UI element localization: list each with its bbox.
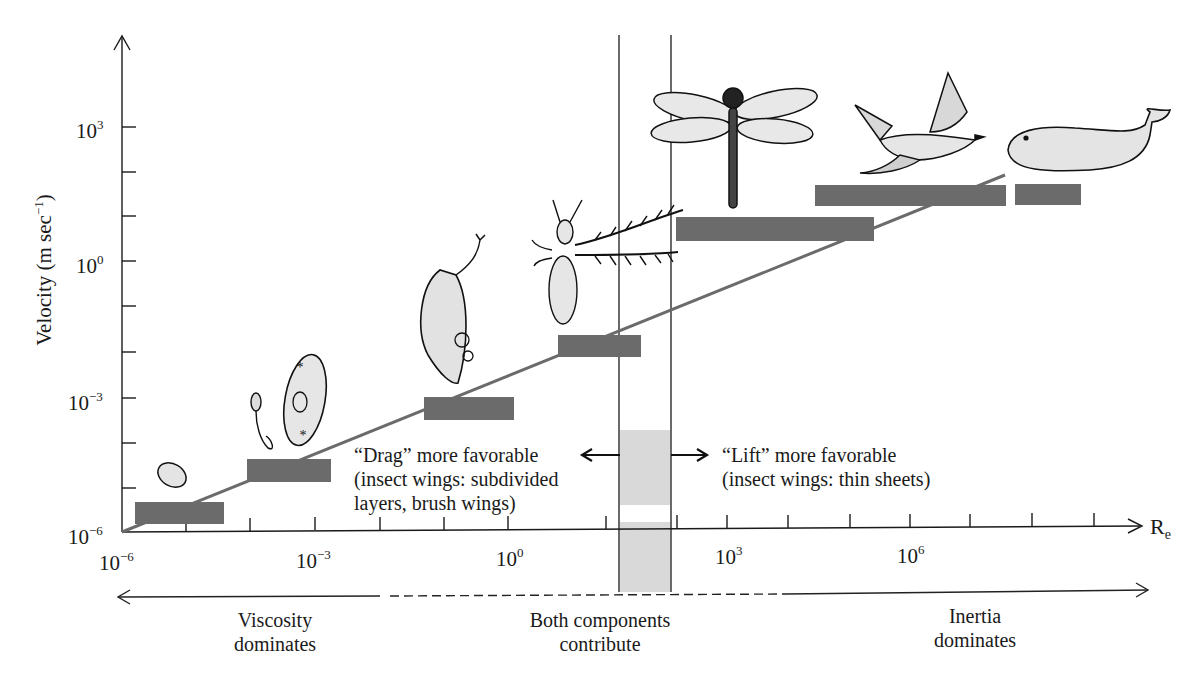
x-tick-exp: 6 [918, 542, 925, 557]
x-tick-exp: −6 [120, 549, 134, 564]
spore-icon [154, 458, 191, 492]
x-axis-label: Re [1150, 514, 1171, 543]
regime-viscosity-line-1: Viscosity [200, 608, 350, 632]
x-axis-label-text: R [1150, 514, 1165, 539]
x-tick-exp: −3 [317, 547, 331, 562]
bar-thrips [558, 335, 641, 357]
drag-line-1: “Drag” more favorable [354, 443, 558, 467]
lift-line-2: (insect wings: thin sheets) [722, 467, 930, 491]
regime-inertia-line-2: dominates [900, 628, 1050, 652]
bird-icon [855, 73, 984, 173]
y-tick-exp: 0 [97, 252, 104, 267]
lift-arrow [671, 449, 707, 461]
bar-rotifer [424, 397, 514, 420]
y-tick-base: 10 [68, 391, 89, 415]
chart-canvas: * * [0, 0, 1202, 681]
bar-dragonfly [676, 217, 874, 241]
y-tick-base: 10 [68, 525, 89, 549]
whale-icon [1008, 109, 1170, 171]
x-tick-base: 10 [99, 551, 120, 575]
x-tick-base: 10 [296, 549, 317, 573]
bar-spore [135, 502, 224, 524]
y-tick-exp: −3 [89, 389, 103, 404]
lift-line-1: “Lift” more favorable [722, 443, 930, 467]
y-tick-1e-6: 10−6 [68, 520, 103, 548]
y-tick-1e-3: 10−3 [68, 386, 103, 414]
x-tick-1e0: 100 [496, 542, 524, 570]
regime-inertia-line-1: Inertia [900, 604, 1050, 628]
drag-line-2: (insect wings: subdivided [354, 467, 558, 491]
regime-viscosity-line-2: dominates [200, 632, 350, 656]
y-axis [114, 36, 136, 532]
y-tick-exp: −6 [89, 523, 103, 538]
x-tick-1e3: 103 [715, 540, 743, 568]
y-tick-base: 10 [76, 119, 97, 143]
rotifer-icon [421, 234, 485, 383]
lift-annotation: “Lift” more favorable (insect wings: thi… [722, 443, 930, 491]
x-tick-base: 10 [897, 544, 918, 568]
x-axis-label-sub: e [1165, 527, 1171, 542]
x-tick-base: 10 [715, 545, 736, 569]
y-tick-1e0: 100 [76, 249, 104, 277]
bar-bird [815, 185, 1006, 206]
y-axis-label-close: ) [32, 194, 56, 201]
x-tick-1e-6: 10−6 [99, 546, 134, 574]
svg-text:*: * [300, 428, 307, 443]
dragonfly-icon [650, 83, 820, 208]
regime-viscosity: Viscosity dominates [200, 608, 350, 656]
thrips-icon [532, 200, 683, 324]
regime-inertia: Inertia dominates [900, 604, 1050, 652]
x-tick-base: 10 [496, 547, 517, 571]
y-axis-label-text: Velocity (m sec [32, 215, 56, 346]
x-tick-1e-3: 10−3 [296, 544, 331, 572]
y-tick-exp: 3 [97, 117, 104, 132]
drag-line-3: layers, brush wings) [354, 491, 558, 515]
x-tick-exp: 0 [517, 545, 524, 560]
drag-arrow [582, 449, 620, 461]
drag-annotation: “Drag” more favorable (insect wings: sub… [354, 443, 558, 515]
y-tick-1e3: 103 [76, 114, 104, 142]
y-tick-base: 10 [76, 254, 97, 278]
bar-whale [1015, 184, 1081, 205]
y-axis-label-exp: −1 [31, 201, 46, 215]
paramecium-icon: * * [277, 351, 332, 449]
svg-text:*: * [297, 360, 304, 375]
y-axis-label: Velocity (m sec−1) [31, 194, 57, 345]
regime-both: Both components contribute [480, 608, 720, 656]
bar-flagellate-paramecium [247, 459, 331, 482]
regime-both-line-1: Both components [480, 608, 720, 632]
x-tick-exp: 3 [736, 543, 743, 558]
x-tick-1e6: 106 [897, 539, 925, 567]
flagellate-icon [251, 393, 272, 449]
regime-both-line-2: contribute [480, 632, 720, 656]
